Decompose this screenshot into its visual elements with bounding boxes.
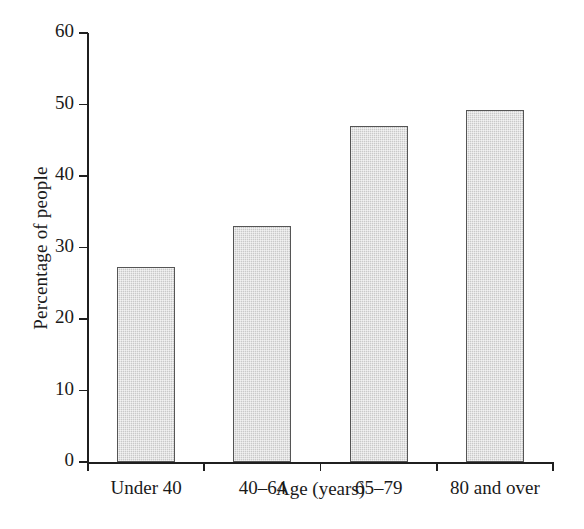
bar-chart-figure: Percentage of people 0102030405060 Under…	[0, 0, 584, 529]
bar	[350, 126, 408, 462]
bar	[233, 226, 291, 462]
y-tick: 20	[79, 318, 88, 320]
plot-area: 0102030405060 Under 4040–6465–7980 and o…	[88, 33, 553, 462]
bar	[466, 110, 524, 462]
y-tick: 10	[79, 390, 88, 392]
y-tick-label: 60	[34, 20, 74, 42]
y-tick: 30	[79, 247, 88, 249]
y-tick-label: 40	[34, 163, 74, 185]
y-tick: 60	[79, 32, 88, 34]
y-tick-label: 0	[34, 449, 74, 471]
x-tick	[87, 462, 89, 471]
x-tick	[320, 462, 322, 471]
x-tick	[436, 462, 438, 471]
y-tick: 50	[79, 104, 88, 106]
x-tick	[203, 462, 205, 471]
x-tick	[552, 462, 554, 471]
bar	[117, 267, 175, 462]
y-tick-label: 30	[34, 235, 74, 257]
y-tick: 40	[79, 175, 88, 177]
x-axis-title: Age (years)	[88, 478, 553, 500]
y-tick-label: 10	[34, 378, 74, 400]
y-tick-label: 20	[34, 306, 74, 328]
y-tick-label: 50	[34, 92, 74, 114]
